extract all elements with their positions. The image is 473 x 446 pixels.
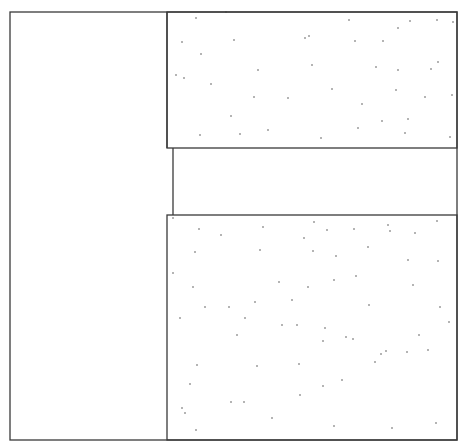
stipple-dot <box>391 427 393 429</box>
stipple-dot <box>281 324 283 326</box>
stipple-dot <box>210 83 212 85</box>
stipple-dot <box>404 132 406 134</box>
stipple-dot <box>333 279 335 281</box>
stipple-dot <box>409 20 411 22</box>
stipple-dot <box>449 136 451 138</box>
stipple-dot <box>192 286 194 288</box>
stipple-dot <box>181 41 183 43</box>
stipple-dot <box>381 120 383 122</box>
stipple-dot <box>243 401 245 403</box>
stipple-dot <box>448 321 450 323</box>
stipple-dot <box>230 401 232 403</box>
stipple-dot <box>352 338 354 340</box>
stipple-dot <box>380 353 382 355</box>
stipple-layer <box>172 11 454 431</box>
stipple-dot <box>278 281 280 283</box>
lower-stippled-block <box>167 215 457 440</box>
stipple-dot <box>348 19 350 21</box>
outer-frame <box>10 12 457 440</box>
stipple-dot <box>271 417 273 419</box>
stipple-dot <box>345 336 347 338</box>
stipple-dot <box>324 327 326 329</box>
stipple-dot <box>287 97 289 99</box>
diagram-canvas <box>0 0 473 446</box>
stipple-dot <box>199 134 201 136</box>
stipple-dot <box>179 317 181 319</box>
stipple-dot <box>397 69 399 71</box>
stipple-dot <box>333 425 335 427</box>
stipple-dot <box>196 364 198 366</box>
stipple-dot <box>236 334 238 336</box>
stipple-dot <box>368 304 370 306</box>
stipple-dot <box>439 306 441 308</box>
stipple-dot <box>181 407 183 409</box>
stipple-dot <box>385 350 387 352</box>
stipple-dot <box>233 39 235 41</box>
stipple-dot <box>437 260 439 262</box>
stipple-dot <box>299 394 301 396</box>
stipple-dot <box>308 35 310 37</box>
stipple-dot <box>253 96 255 98</box>
stipple-dot <box>194 251 196 253</box>
stipple-dot <box>195 429 197 431</box>
stipple-dot <box>436 19 438 21</box>
stipple-dot <box>256 365 258 367</box>
stipple-dot <box>430 68 432 70</box>
stipple-dot <box>291 299 293 301</box>
stipple-dot <box>361 103 363 105</box>
stipple-dot <box>189 383 191 385</box>
stipple-dot <box>375 66 377 68</box>
stipple-dot <box>230 115 232 117</box>
stipple-dot <box>331 88 333 90</box>
stipple-dot <box>259 249 261 251</box>
stipple-dot <box>395 89 397 91</box>
stipple-dot <box>198 228 200 230</box>
stipple-dot <box>262 226 264 228</box>
stipple-dot <box>267 129 269 131</box>
upper-stippled-block <box>167 12 457 148</box>
stipple-dot <box>172 272 174 274</box>
stipple-dot <box>374 361 376 363</box>
stipple-dot <box>200 53 202 55</box>
stipple-dot <box>322 340 324 342</box>
stipple-dot <box>418 334 420 336</box>
stipple-dot <box>436 220 438 222</box>
stipple-dot <box>172 217 174 219</box>
stipple-dot <box>220 234 222 236</box>
stipple-dot <box>228 306 230 308</box>
stipple-dot <box>414 232 416 234</box>
stipple-dot <box>424 96 426 98</box>
stipple-dot <box>397 27 399 29</box>
cross-section-diagram <box>0 0 473 446</box>
stipple-dot <box>407 118 409 120</box>
stipple-dot <box>354 40 356 42</box>
stipple-dot <box>389 230 391 232</box>
stipple-dot <box>452 21 454 23</box>
stipple-dot <box>435 422 437 424</box>
stipple-dot <box>335 255 337 257</box>
stipple-dot <box>427 349 429 351</box>
stipple-dot <box>355 275 357 277</box>
stipple-dot <box>254 301 256 303</box>
stipple-dot <box>298 363 300 365</box>
stipple-dot <box>244 317 246 319</box>
stipple-dot <box>437 61 439 63</box>
stipple-dot <box>451 94 453 96</box>
stipple-dot <box>407 259 409 261</box>
stipple-dot <box>341 379 343 381</box>
stipple-dot <box>322 385 324 387</box>
stipple-dot <box>387 224 389 226</box>
stipple-dot <box>307 286 309 288</box>
stipple-dot <box>175 74 177 76</box>
stipple-dot <box>257 69 259 71</box>
stipple-dot <box>313 221 315 223</box>
stipple-dot <box>382 40 384 42</box>
stipple-dot <box>296 324 298 326</box>
stipple-dot <box>312 250 314 252</box>
stipple-dot <box>353 228 355 230</box>
stipple-dot <box>204 306 206 308</box>
stipple-dot <box>239 133 241 135</box>
stipple-dot <box>357 127 359 129</box>
stipple-dot <box>195 17 197 19</box>
stipple-dot <box>320 137 322 139</box>
